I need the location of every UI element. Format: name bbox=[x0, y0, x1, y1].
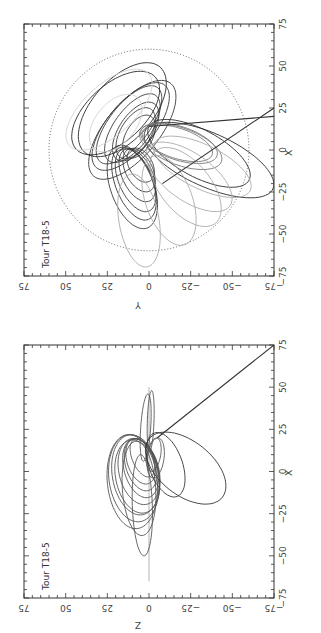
y-tick-labels-xy: −75−50−250255075 bbox=[18, 281, 283, 291]
figure: −75−50−250255075 −75−50−250255075 X Y To… bbox=[0, 0, 321, 633]
plot-area-xy bbox=[49, 49, 274, 267]
trajectory-line bbox=[149, 116, 274, 126]
x-axis-label-xy: X bbox=[284, 150, 294, 156]
x-axis-label-xz: X bbox=[284, 470, 294, 476]
y-tick-label: 0 bbox=[146, 281, 152, 291]
x-tick-label: 25 bbox=[278, 424, 288, 435]
panel-xz-plot: −75−50−250255075 −75−50−250255075 X Z To… bbox=[18, 339, 294, 630]
y-tick-label: 25 bbox=[102, 281, 113, 291]
x-tick-label: −50 bbox=[278, 546, 288, 565]
y-tick-label: 50 bbox=[60, 281, 72, 291]
orbit-path bbox=[78, 63, 166, 157]
x-tick-label: −50 bbox=[278, 224, 288, 243]
z-axis-label-xz: Z bbox=[135, 620, 141, 630]
panel-title-xy: Tour T18-5 bbox=[41, 220, 51, 269]
orbit-path bbox=[118, 174, 161, 267]
trajectory-line bbox=[157, 345, 274, 438]
orbit-family-inclined-loops bbox=[107, 391, 164, 556]
y-tick-label: −50 bbox=[223, 603, 242, 613]
x-tick-label: 50 bbox=[278, 60, 288, 72]
y-tick-label: 75 bbox=[18, 603, 29, 613]
y-tick-label: 0 bbox=[146, 603, 152, 613]
orbit-path bbox=[150, 148, 221, 227]
x-tick-label: −25 bbox=[278, 183, 288, 202]
y-tick-label: 75 bbox=[18, 281, 29, 291]
y-tick-label: 50 bbox=[60, 603, 72, 613]
z-tick-labels-xz: −75−50−250255075 bbox=[18, 603, 283, 613]
y-tick-label: −75 bbox=[265, 603, 284, 613]
y-tick-label: −25 bbox=[181, 603, 200, 613]
y-tick-label: −75 bbox=[265, 281, 284, 291]
x-tick-label: 50 bbox=[278, 381, 288, 393]
y-axis-label-xy: Y bbox=[135, 300, 142, 310]
x-tick-label: 75 bbox=[278, 18, 288, 29]
panel-xy-plot: −75−50−250255075 −75−50−250255075 X Y To… bbox=[18, 18, 294, 310]
y-tick-label: −50 bbox=[223, 281, 242, 291]
orbit-path bbox=[154, 136, 252, 197]
y-tick-label: −25 bbox=[181, 281, 200, 291]
plot-area-xz bbox=[107, 345, 274, 581]
x-tick-label: 75 bbox=[278, 339, 288, 350]
x-tick-label: 25 bbox=[278, 102, 288, 113]
y-tick-label: 25 bbox=[102, 603, 113, 613]
x-tick-label: −25 bbox=[278, 504, 288, 523]
panel-title-xz: Tour T18-5 bbox=[41, 542, 51, 591]
